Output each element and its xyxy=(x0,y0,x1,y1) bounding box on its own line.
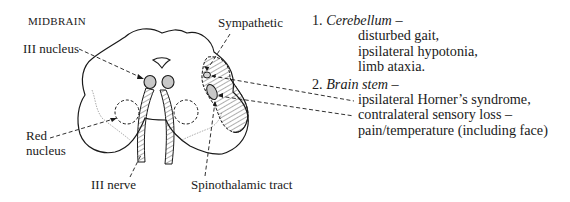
label-iii-nerve: III nerve xyxy=(91,177,136,192)
leader-red-nucleus xyxy=(50,118,117,138)
finding-item: ipsilateral hypotonia, xyxy=(312,44,548,59)
leader-iii-nucleus xyxy=(79,49,142,78)
finding-item: ipsilateral Horner’s syndrome, xyxy=(312,92,548,107)
substantia-nigra-left xyxy=(92,90,130,140)
finding-brainstem-heading: 2. Brain stem – xyxy=(312,77,548,92)
iii-nerve-left xyxy=(137,88,154,162)
iii-nucleus-right xyxy=(162,76,174,89)
substantia-nigra-right xyxy=(182,112,222,140)
red-nucleus-left xyxy=(115,100,139,124)
finding-region: Cerebellum xyxy=(326,12,392,28)
finding-item: limb ataxia. xyxy=(312,59,548,74)
label-spinothalamic: Spinothalamic tract xyxy=(191,177,292,192)
iii-nucleus-left xyxy=(144,76,156,89)
sympathetic-tract xyxy=(204,72,211,78)
finding-item: pain/temperature (including face) xyxy=(312,123,548,138)
findings-list: 1. Cerebellum – disturbed gait, ipsilate… xyxy=(312,13,548,138)
diagram-title: MIDBRAIN xyxy=(28,14,86,29)
red-nucleus-right xyxy=(174,100,198,124)
iii-nerve-right xyxy=(160,90,174,164)
label-iii-nucleus: III nucleus xyxy=(23,41,79,56)
leader-iii-nerve xyxy=(130,155,141,177)
arrowhead-red-nucleus xyxy=(110,118,117,122)
finding-cerebellum-heading: 1. Cerebellum – xyxy=(312,13,548,28)
finding-item: disturbed gait, xyxy=(312,28,548,43)
leader-spinothalamic xyxy=(205,102,215,176)
label-red-nucleus-2: nucleus xyxy=(26,143,66,158)
arrowhead-iii-nucleus xyxy=(137,74,144,79)
finding-region: Brain stem xyxy=(326,76,388,92)
finding-item: contralateral sensory loss – xyxy=(312,107,548,122)
aqueduct-shape xyxy=(153,58,170,68)
label-red-nucleus-1: Red xyxy=(26,128,47,143)
label-sympathetic: Sympathetic xyxy=(218,15,283,30)
